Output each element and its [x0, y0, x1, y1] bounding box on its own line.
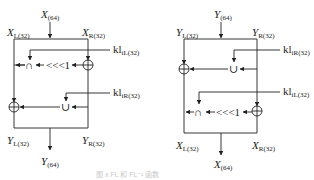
fl-xr-label: XR(32): [81, 26, 106, 40]
fl-rotate-label: <<<1: [46, 59, 70, 71]
fl-inverse-diagram: Y(64) YL(32) YR(32) kliR(32) ∪ kliL(32) …: [175, 8, 311, 172]
fli-and-op: ∩: [194, 106, 202, 118]
fl-key-bottom-label: kliR(32): [113, 86, 141, 100]
fli-xr-label: XR(32): [251, 139, 276, 153]
fl-function-diagram: X(64) XL(32) XR(32) kliL(32) ∩ <<<1 kliR…: [0, 0, 314, 180]
fl-or-op: ∪: [61, 101, 70, 113]
fli-yl-label: YL(32): [176, 26, 199, 40]
fli-yr-label: YR(32): [252, 26, 275, 40]
fli-xl-label: XL(32): [175, 139, 199, 153]
fli-key-top-label: kliR(32): [283, 43, 311, 57]
fli-input-label: Y(64): [214, 8, 232, 22]
fl-key-top-label: kliL(32): [113, 43, 140, 57]
fl-diagram: X(64) XL(32) XR(32) kliL(32) ∩ <<<1 kliR…: [6, 8, 141, 169]
fli-rotate-label: <<<1: [216, 106, 240, 118]
fli-or-op: ∪: [229, 63, 238, 75]
fli-key-bottom-wire: [199, 92, 280, 104]
fl-xl-label: XL(32): [6, 26, 30, 40]
fl-output-label: Y(64): [41, 155, 59, 169]
fl-and-op: ∩: [25, 59, 33, 71]
fl-input-label: X(64): [40, 8, 60, 22]
fl-yl-label: YL(32): [7, 134, 30, 148]
figure-caption: 图 x FL 和 FL⁻¹ 函数: [96, 170, 159, 179]
fl-yr-label: YR(32): [82, 134, 105, 148]
fli-output-label: X(64): [213, 158, 233, 172]
fli-key-bottom-label: kliL(32): [283, 85, 310, 99]
